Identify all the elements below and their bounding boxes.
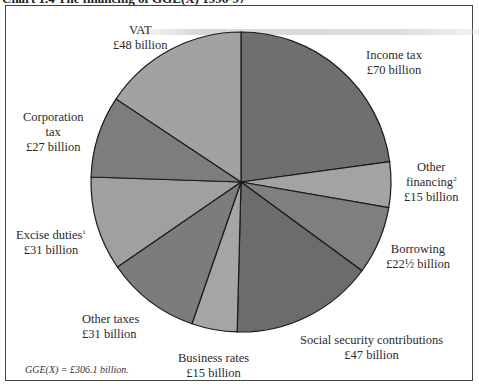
label-other-financing-name: Other [404,160,459,175]
label-other-financing: Other financing2 £15 billion [404,160,459,205]
label-income-tax-name: Income tax [366,48,422,63]
label-other-financing-amount: £15 billion [404,190,459,205]
label-corporation-tax: Corporation tax £27 billion [23,110,83,155]
label-corporation-name: Corporation [23,110,83,125]
label-social-security-name: Social security contributions [300,333,443,348]
label-corporation-name2: tax [23,125,83,140]
label-borrowing: Borrowing £22½ billion [386,242,450,272]
label-other-financing-name2: financing2 [404,175,459,190]
label-social-security: Social security contributions £47 billio… [300,333,443,363]
label-corporation-amount: £27 billion [23,140,83,155]
footnote-marker: 1 [82,228,86,236]
label-vat-name: VAT [113,23,168,38]
label-other-financing-name2-text: financing [406,175,453,189]
label-excise-amount: £31 billion [16,243,86,258]
footnote-marker: 2 [453,175,457,183]
label-business-rates-name: Business rates [178,351,249,366]
label-excise-name: Excise duties [16,228,82,242]
label-vat-amount: £48 billion [113,38,168,53]
label-social-security-amount: £47 billion [300,348,443,363]
label-borrowing-amount: £22½ billion [386,257,450,272]
label-vat: VAT £48 billion [113,23,168,53]
label-other-taxes-name: Other taxes [82,312,139,327]
label-business-rates-amount: £15 billion [178,366,249,381]
label-income-tax: Income tax £70 billion [366,48,422,78]
pie-slices [91,32,391,332]
label-other-taxes-amount: £31 billion [82,327,139,342]
label-income-tax-amount: £70 billion [366,63,422,78]
label-borrowing-name: Borrowing [386,242,450,257]
label-business-rates: Business rates £15 billion [178,351,249,381]
label-excise-duties: Excise duties1 £31 billion [16,228,86,258]
label-other-taxes: Other taxes £31 billion [82,312,139,342]
label-excise-name-wrap: Excise duties1 [16,228,86,243]
total-note: GGE(X) = £306.1 billion. [25,364,129,375]
